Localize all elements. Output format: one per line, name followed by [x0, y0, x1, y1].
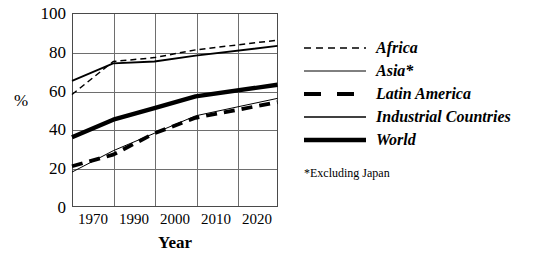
chart-root: % 100 80 60 40 20 0 1970 1990 2000: [0, 0, 539, 269]
x-tick-2010: 2010: [201, 211, 231, 227]
legend-label-africa: Africa: [376, 39, 418, 56]
legend-swatch-industrial-countries-line-icon: [304, 110, 366, 124]
y-axis-tick-labels: 100 80 60 40 20 0: [22, 13, 66, 207]
legend-item-latin-america: Latin America: [304, 82, 536, 105]
series-layer: [72, 13, 278, 207]
legend-item-asia: Asia*: [304, 59, 536, 82]
y-tick-0: 0: [26, 199, 66, 216]
y-tick-80: 80: [26, 43, 66, 60]
x-tick-2000: 2000: [160, 211, 190, 227]
legend-swatch-africa-dashed-line-icon: [304, 41, 366, 55]
legend-swatch-world-extrathick-line-icon: [304, 133, 366, 147]
legend-label-industrial-countries: Industrial Countries: [376, 108, 511, 125]
legend-item-world: World: [304, 128, 536, 151]
legend-label-latin-america: Latin America: [376, 85, 471, 102]
legend-footnote: *Excluding Japan: [304, 166, 390, 180]
y-tick-40: 40: [26, 121, 66, 138]
x-tick-2020: 2020: [242, 211, 272, 227]
legend-swatch-latin-america-thick-dashed-line-icon: [304, 87, 366, 101]
y-tick-20: 20: [26, 160, 66, 177]
plot-container: % 100 80 60 40 20 0 1970 1990 2000: [0, 0, 300, 269]
legend-swatch-asia-thin-line-icon: [304, 64, 366, 78]
series-line-industrial-countries: [72, 46, 278, 81]
legend-label-world: World: [376, 131, 416, 148]
legend-item-industrial-countries: Industrial Countries: [304, 105, 536, 128]
y-tick-60: 60: [26, 82, 66, 99]
legend-item-africa: Africa: [304, 36, 536, 59]
x-tick-1990: 1990: [119, 211, 149, 227]
legend: Africa Asia* Latin America: [304, 36, 536, 151]
y-tick-100: 100: [26, 5, 66, 22]
legend-label-asia: Asia*: [376, 62, 413, 79]
x-tick-1970: 1970: [78, 211, 108, 227]
x-axis-label: Year: [158, 234, 192, 252]
series-line-world: [72, 85, 278, 137]
